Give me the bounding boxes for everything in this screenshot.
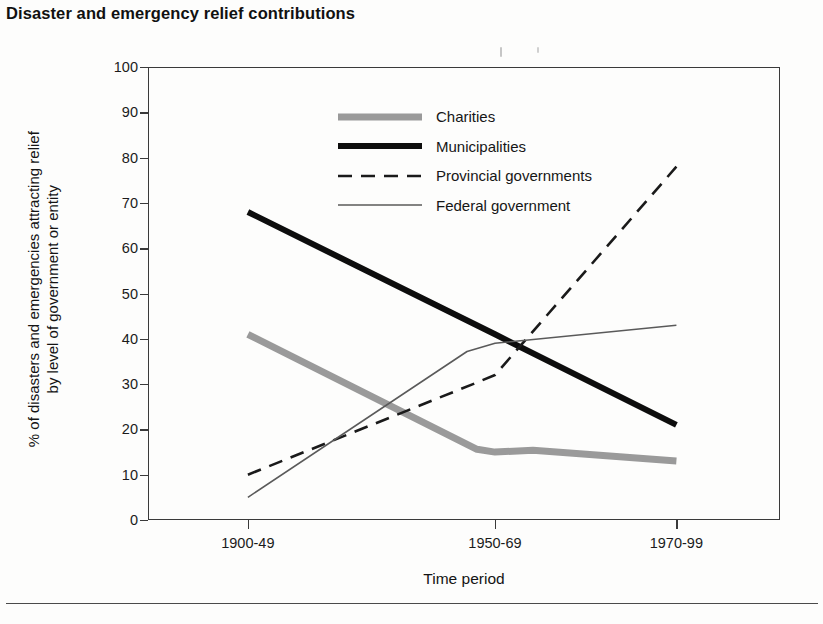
- y-axis-title-line2: by level of government or entity: [44, 185, 61, 393]
- y-tick-mark: [140, 248, 148, 249]
- x-tick-mark: [248, 520, 249, 529]
- x-tick-label: 1950-69: [415, 535, 575, 551]
- legend-item-municipalities[interactable]: Municipalities: [338, 134, 658, 159]
- series-line-federal-government: [248, 325, 677, 497]
- y-tick-mark: [140, 112, 148, 113]
- y-tick-mark: [140, 203, 148, 204]
- x-tick-label: 1970-99: [596, 535, 756, 551]
- y-axis-title-line1: % of disasters and emergencies attractin…: [25, 131, 42, 447]
- legend-label: Federal government: [436, 197, 570, 214]
- y-tick-mark: [140, 158, 148, 159]
- legend-swatch-icon: [338, 197, 422, 213]
- y-tick-label: 80: [98, 150, 138, 166]
- y-tick-label: 70: [98, 195, 138, 211]
- x-tick-mark: [676, 520, 677, 529]
- legend-swatch-icon: [338, 138, 422, 154]
- y-tick-label: 90: [98, 104, 138, 120]
- legend-label: Municipalities: [436, 138, 526, 155]
- legend-label: Charities: [436, 108, 495, 125]
- page-title: Disaster and emergency relief contributi…: [6, 4, 355, 23]
- y-tick-label: 100: [98, 59, 138, 75]
- legend-label: Provincial governments: [436, 167, 592, 184]
- y-tick-label: 60: [98, 240, 138, 256]
- series-line-municipalities: [248, 212, 677, 425]
- y-tick-mark: [140, 429, 148, 430]
- y-tick-label: 10: [98, 467, 138, 483]
- y-axis-title: % of disasters and emergencies attractin…: [24, 79, 62, 499]
- y-tick-mark: [140, 67, 148, 68]
- x-tick-mark: [495, 520, 496, 529]
- legend-swatch-icon: [338, 109, 422, 125]
- scan-speck: [500, 47, 502, 57]
- footer-divider: [6, 603, 818, 604]
- chart-legend: CharitiesMunicipalitiesProvincial govern…: [338, 104, 658, 222]
- legend-item-federal-government[interactable]: Federal government: [338, 193, 658, 218]
- y-tick-label: 40: [98, 331, 138, 347]
- x-axis-title: Time period: [148, 570, 780, 588]
- legend-swatch-icon: [338, 168, 422, 184]
- scan-speck: [537, 47, 539, 53]
- chart-page: Disaster and emergency relief contributi…: [0, 0, 823, 624]
- series-line-charities: [248, 334, 677, 461]
- y-tick-mark: [140, 520, 148, 521]
- y-tick-mark: [140, 339, 148, 340]
- y-tick-mark: [140, 475, 148, 476]
- y-tick-label: 0: [98, 512, 138, 528]
- y-tick-mark: [140, 294, 148, 295]
- y-tick-label: 30: [98, 376, 138, 392]
- legend-item-charities[interactable]: Charities: [338, 104, 658, 129]
- y-tick-label: 50: [98, 286, 138, 302]
- y-axis-tick-labels: 0102030405060708090100: [92, 0, 138, 624]
- y-tick-label: 20: [98, 421, 138, 437]
- y-tick-mark: [140, 384, 148, 385]
- x-tick-label: 1900-49: [168, 535, 328, 551]
- legend-item-provincial-governments[interactable]: Provincial governments: [338, 163, 658, 188]
